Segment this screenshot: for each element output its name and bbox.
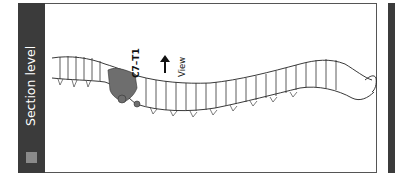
c7-t1-label: C7–T1 [131, 48, 141, 78]
left-arrow-icon [157, 54, 173, 74]
view-label: View [177, 57, 187, 77]
spine-illustration [0, 0, 395, 190]
